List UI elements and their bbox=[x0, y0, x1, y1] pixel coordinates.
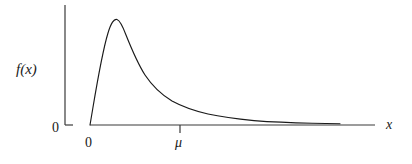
density-function-figure: f(x) x 0 0 μ bbox=[0, 0, 412, 164]
plot-canvas bbox=[0, 0, 412, 164]
x-axis-label: x bbox=[386, 118, 392, 132]
y-axis-label: f(x) bbox=[16, 62, 37, 77]
x-axis-mu-label: μ bbox=[175, 136, 182, 150]
density-curve bbox=[90, 19, 340, 125]
x-axis-zero-label: 0 bbox=[85, 136, 92, 150]
y-axis-zero-label: 0 bbox=[52, 121, 59, 135]
